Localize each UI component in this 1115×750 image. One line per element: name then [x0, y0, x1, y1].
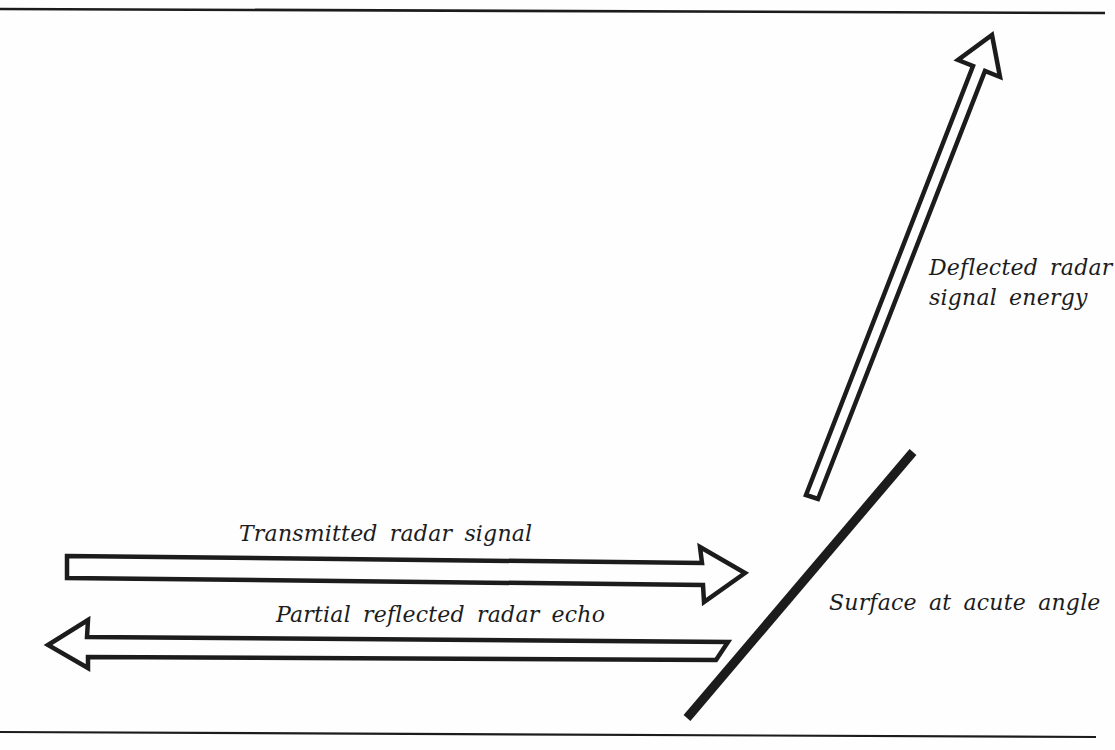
bottom-border-line — [0, 732, 1096, 737]
surface-label: Surface at acute angle — [829, 590, 1101, 616]
deflected-arrow-label-line2: signal energy — [929, 283, 1112, 313]
diagram-page: Transmitted radar signal Partial reflect… — [0, 0, 1115, 750]
transmitted-arrow-label: Transmitted radar signal — [239, 521, 532, 547]
top-border-line — [0, 9, 1105, 13]
radar-deflection-diagram — [0, 0, 1115, 750]
transmitted-arrow — [67, 547, 745, 602]
deflected-arrow-label: Deflected radar signal energy — [929, 253, 1112, 313]
reflected-arrow-label: Partial reflected radar echo — [276, 602, 605, 628]
deflected-arrow-label-line1: Deflected radar — [929, 253, 1112, 283]
